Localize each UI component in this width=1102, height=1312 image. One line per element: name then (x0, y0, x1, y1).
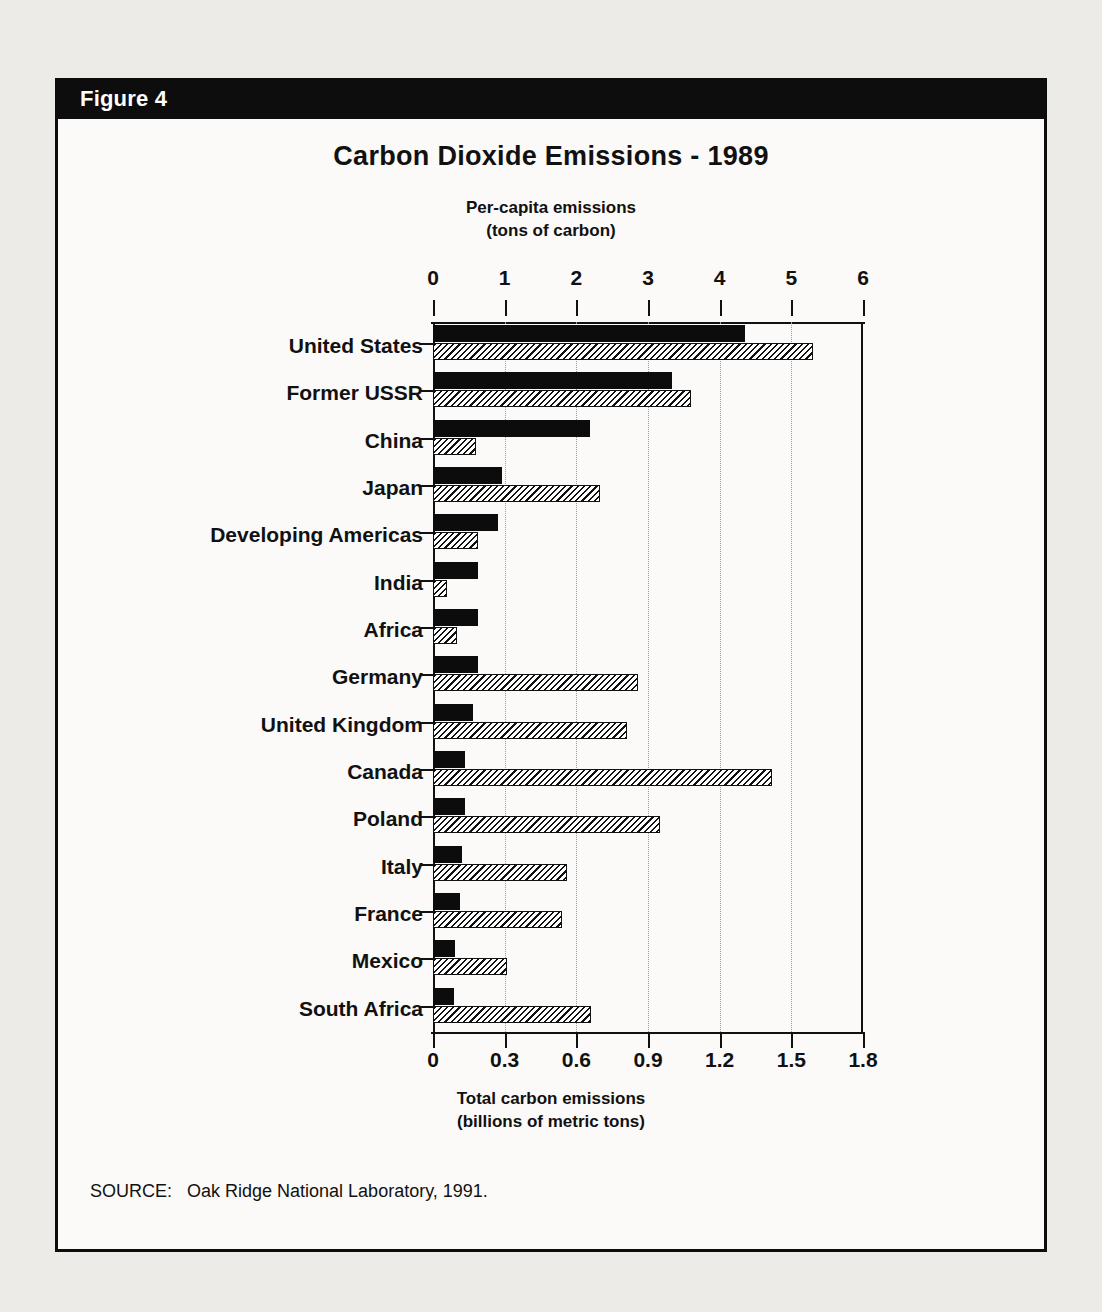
category-label: France (3, 902, 423, 926)
category-tick-mark (420, 769, 433, 771)
bottom-axis-title-line1: Total carbon emissions (58, 1088, 1044, 1111)
bar-total-emissions (433, 485, 600, 502)
category-label: Developing Americas (3, 523, 423, 547)
bar-total-emissions (433, 438, 476, 455)
top-tick-label: 4 (714, 266, 726, 290)
bar-row: India (433, 562, 863, 609)
top-tick-mark (433, 300, 435, 316)
category-label: Poland (3, 807, 423, 831)
top-tick-label: 1 (499, 266, 511, 290)
bar-row: Germany (433, 656, 863, 703)
category-label: Mexico (3, 949, 423, 973)
top-tick-mark (863, 300, 865, 316)
bar-row: Africa (433, 609, 863, 656)
category-label: Germany (3, 665, 423, 689)
category-tick-mark (420, 958, 433, 960)
category-tick-mark (420, 627, 433, 629)
top-tick-mark (648, 300, 650, 316)
category-tick-mark (420, 580, 433, 582)
bar-total-emissions (433, 674, 638, 691)
bar-per-capita (433, 846, 462, 863)
category-label: Africa (3, 618, 423, 642)
category-tick-mark (420, 485, 433, 487)
bar-total-emissions (433, 864, 567, 881)
bottom-tick-label: 1.8 (848, 1048, 877, 1072)
category-label: India (3, 571, 423, 595)
top-tick-mark (720, 300, 722, 316)
bottom-tick-label: 0.6 (562, 1048, 591, 1072)
category-label: China (3, 429, 423, 453)
bottom-tick-label: 1.5 (777, 1048, 806, 1072)
bar-row: Poland (433, 798, 863, 845)
bar-row: United States (433, 325, 863, 372)
category-tick-mark (420, 911, 433, 913)
bar-row: South Africa (433, 988, 863, 1035)
bar-per-capita (433, 372, 672, 389)
bar-row: Italy (433, 846, 863, 893)
top-tick-mark (505, 300, 507, 316)
bar-per-capita (433, 704, 473, 721)
bar-per-capita (433, 988, 454, 1005)
bar-per-capita (433, 751, 465, 768)
bar-per-capita (433, 420, 590, 437)
figure-page: Figure 4 Carbon Dioxide Emissions - 1989… (0, 0, 1102, 1312)
top-tick-mark (791, 300, 793, 316)
bottom-tick-mark (863, 1032, 865, 1048)
bottom-tick-label: 0.9 (633, 1048, 662, 1072)
top-tick-mark (576, 300, 578, 316)
bar-per-capita (433, 940, 455, 957)
category-label: Italy (3, 855, 423, 879)
top-tick-label: 5 (785, 266, 797, 290)
source-note: SOURCE: Oak Ridge National Laboratory, 1… (90, 1181, 488, 1202)
top-tick-label: 6 (857, 266, 869, 290)
top-axis-title: Per-capita emissions (tons of carbon) (58, 197, 1044, 243)
bar-per-capita (433, 798, 465, 815)
category-tick-mark (420, 674, 433, 676)
bar-total-emissions (433, 722, 627, 739)
category-label: United Kingdom (3, 713, 423, 737)
category-tick-mark (420, 438, 433, 440)
bar-row: China (433, 420, 863, 467)
bar-total-emissions (433, 1006, 591, 1023)
top-tick-label: 0 (427, 266, 439, 290)
category-tick-mark (420, 864, 433, 866)
bottom-tick-label: 1.2 (705, 1048, 734, 1072)
bar-row: Mexico (433, 940, 863, 987)
figure-frame: Figure 4 Carbon Dioxide Emissions - 1989… (55, 78, 1047, 1252)
chart-title: Carbon Dioxide Emissions - 1989 (58, 141, 1044, 172)
bar-per-capita (433, 656, 478, 673)
figure-label: Figure 4 (80, 86, 167, 112)
bottom-tick-label: 0.3 (490, 1048, 519, 1072)
category-label: Former USSR (3, 381, 423, 405)
bar-row: Former USSR (433, 372, 863, 419)
plot-area: 0123456 00.30.60.91.21.51.8 United State… (433, 322, 863, 1032)
category-tick-mark (420, 343, 433, 345)
bar-row: Canada (433, 751, 863, 798)
category-label: Canada (3, 760, 423, 784)
bar-row: France (433, 893, 863, 940)
top-axis-title-line2: (tons of carbon) (58, 220, 1044, 243)
bar-per-capita (433, 325, 745, 342)
category-tick-mark (420, 1006, 433, 1008)
bar-total-emissions (433, 769, 772, 786)
bar-total-emissions (433, 627, 457, 644)
bottom-axis-title-line2: (billions of metric tons) (58, 1111, 1044, 1134)
bar-per-capita (433, 609, 478, 626)
bottom-axis-title: Total carbon emissions (billions of metr… (58, 1088, 1044, 1134)
bar-row: United Kingdom (433, 704, 863, 751)
bar-row: Developing Americas (433, 514, 863, 561)
category-tick-mark (420, 390, 433, 392)
figure-header-bar: Figure 4 (58, 81, 1044, 119)
top-axis-title-line1: Per-capita emissions (58, 197, 1044, 220)
bar-row: Japan (433, 467, 863, 514)
bar-total-emissions (433, 532, 478, 549)
category-label: Japan (3, 476, 423, 500)
bar-total-emissions (433, 958, 507, 975)
bar-total-emissions (433, 911, 562, 928)
category-tick-mark (420, 816, 433, 818)
top-tick-label: 2 (570, 266, 582, 290)
bar-total-emissions (433, 816, 660, 833)
bottom-tick-label: 0 (427, 1048, 439, 1072)
bar-per-capita (433, 514, 498, 531)
category-label: South Africa (3, 997, 423, 1021)
